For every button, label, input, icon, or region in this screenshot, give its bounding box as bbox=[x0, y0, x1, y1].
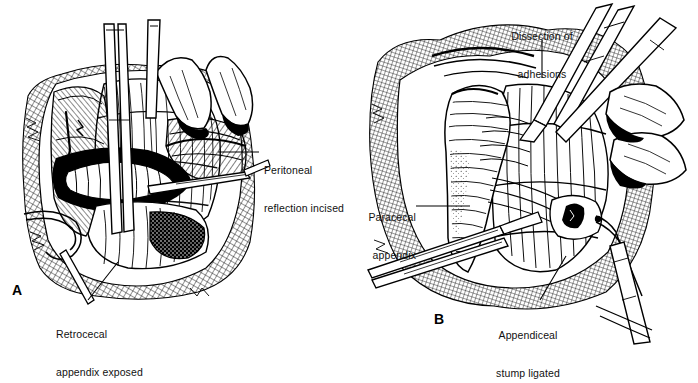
label-dissection-of-adhesions: Dissection of adhesions bbox=[492, 5, 592, 105]
label-paracecal-appendix: Paracecal appendix bbox=[348, 186, 416, 286]
label-appendiceal-stump-ligated: Appendiceal stump ligated bbox=[478, 304, 578, 383]
label-peritoneal-reflection-incised-line1: Peritoneal bbox=[264, 164, 344, 177]
label-appendiceal-stump-ligated-line2: stump ligated bbox=[478, 367, 578, 380]
label-paracecal-appendix-line2: appendix bbox=[348, 249, 416, 262]
panel-a-artwork bbox=[23, 20, 270, 304]
label-dissection-of-adhesions-line1: Dissection of bbox=[492, 30, 592, 43]
panel-letter-a: A bbox=[12, 282, 22, 298]
panel-b-fingers bbox=[606, 84, 686, 189]
label-retrocecal-appendix-exposed: Retrocecal appendix exposed bbox=[56, 303, 143, 383]
label-paracecal-appendix-line1: Paracecal bbox=[348, 211, 416, 224]
label-retrocecal-appendix-exposed-line2: appendix exposed bbox=[56, 366, 143, 379]
label-peritoneal-reflection-incised-line2: reflection incised bbox=[264, 202, 344, 215]
panel-letter-b: B bbox=[434, 311, 444, 327]
panel-a-cecal-pouch bbox=[88, 202, 208, 269]
label-peritoneal-reflection-incised: Peritoneal reflection incised bbox=[264, 139, 344, 239]
label-appendiceal-stump-ligated-line1: Appendiceal bbox=[478, 329, 578, 342]
label-retrocecal-appendix-exposed-line1: Retrocecal bbox=[56, 328, 143, 341]
label-dissection-of-adhesions-line2: adhesions bbox=[492, 68, 592, 81]
